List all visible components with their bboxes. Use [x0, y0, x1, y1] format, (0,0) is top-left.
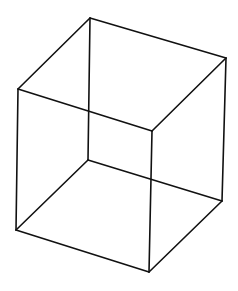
cube-edge-top-back-to-bottom-back	[88, 18, 90, 160]
cube-edge-bottom-back-to-bottom-right	[88, 160, 222, 201]
cube-edge-top-left-to-top-front	[18, 89, 152, 131]
cube-edge-bottom-left-to-bottom-front	[16, 230, 149, 272]
cube-edge-top-right-to-top-front	[152, 58, 226, 131]
necker-cube-drawing	[0, 0, 238, 291]
cube-edge-bottom-back-to-bottom-left	[16, 160, 88, 230]
cube-edge-top-back-to-top-right	[90, 18, 226, 58]
cube-edge-top-right-to-bottom-right	[222, 58, 226, 201]
cube-edge-top-front-to-bottom-front	[149, 131, 152, 272]
cube-edge-top-left-to-bottom-left	[16, 89, 18, 230]
cube-edge-bottom-right-to-bottom-front	[149, 201, 222, 272]
cube-diagram	[0, 0, 238, 291]
cube-edge-top-back-to-top-left	[18, 18, 90, 89]
